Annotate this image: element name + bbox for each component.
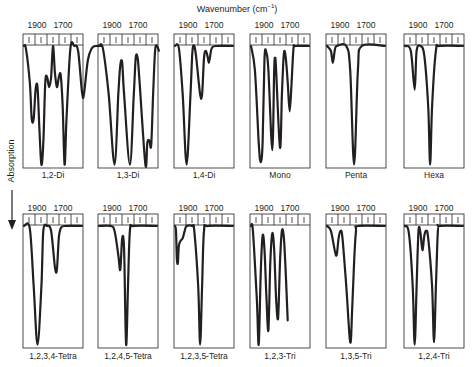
- panel-label: Penta: [345, 170, 367, 180]
- spectrum-curve: [405, 45, 463, 165]
- tick-label: 1700: [435, 203, 454, 213]
- tick-label: 1700: [129, 203, 148, 213]
- spectrum-panel: 190017001,2,3-Tri: [250, 203, 310, 361]
- spectrum-panel: 190017001,2-Di: [23, 20, 101, 180]
- spectrum-panel: 19001700Mono: [250, 20, 310, 180]
- tick-label: 1900: [179, 203, 198, 213]
- tick-label: 1700: [205, 203, 224, 213]
- tick-label: 1700: [54, 20, 73, 30]
- spectrum-curve: [251, 224, 288, 345]
- tick-label: 1700: [281, 203, 300, 213]
- spectrum-panel: 190017001,3-Di: [98, 20, 159, 180]
- tick-label: 1700: [357, 203, 376, 213]
- spectrum-panel: 190017001,2,3,5-Tetra: [174, 203, 234, 361]
- tick-label: 1900: [331, 203, 350, 213]
- tick-label: 1900: [28, 20, 47, 30]
- panel-label: 1,2-Di: [42, 170, 65, 180]
- spectrum-curve: [405, 225, 463, 345]
- spectrum-curve: [327, 226, 385, 343]
- tick-label: 1900: [28, 203, 47, 213]
- tick-label: 1700: [129, 20, 148, 30]
- tick-label: 1900: [179, 20, 198, 30]
- spectrum-curve: [175, 225, 233, 345]
- panel-label: 1,2,4,5-Tetra: [104, 351, 152, 361]
- tick-label: 1900: [409, 20, 428, 30]
- panel-label: 1,2,3,4-Tetra: [29, 351, 77, 361]
- tick-label: 1900: [255, 20, 274, 30]
- tick-label: 1700: [281, 20, 300, 30]
- tick-label: 1900: [255, 203, 274, 213]
- panel-label: 1,2,3,5-Tetra: [180, 351, 228, 361]
- spectrum-curve: [327, 44, 385, 165]
- spectrum-panel: 19001700Penta: [326, 20, 386, 180]
- spectrum-curve: [24, 223, 82, 344]
- tick-label: 1700: [357, 20, 376, 30]
- tick-label: 1700: [54, 203, 73, 213]
- tick-label: 1900: [103, 203, 122, 213]
- tick-label: 1700: [435, 20, 454, 30]
- spectrum-panel: 19001700Hexa: [404, 20, 464, 180]
- panel-label: Mono: [269, 170, 291, 180]
- tick-label: 1900: [331, 20, 350, 30]
- panel-label: 1,3,5-Tri: [340, 351, 371, 361]
- spectrum-curve: [99, 44, 159, 167]
- tick-label: 1900: [409, 203, 428, 213]
- absorption-arrow-icon: [8, 190, 16, 230]
- spectrum-panel: 190017001,2,4-Tri: [404, 203, 464, 361]
- spectrum-panel: 190017001,2,3,4-Tetra: [23, 203, 83, 361]
- spectrum-panel: 190017001,2,4,5-Tetra: [98, 203, 158, 361]
- spectrum-curve: [99, 225, 157, 345]
- ir-spectra-chart: 190017001,2-Di190017001,3-Di190017001,4-…: [0, 0, 474, 367]
- panel-label: Hexa: [424, 170, 444, 180]
- spectrum-curve: [175, 44, 233, 164]
- tick-label: 1700: [205, 20, 224, 30]
- panel-label: 1,4-Di: [193, 170, 216, 180]
- panel-label: 1,2,4-Tri: [418, 351, 449, 361]
- spectrum-panel: 190017001,4-Di: [174, 20, 234, 180]
- spectrum-curve: [24, 42, 101, 165]
- tick-label: 1900: [103, 20, 122, 30]
- panel-label: 1,3-Di: [117, 170, 140, 180]
- spectrum-panel: 190017001,3,5-Tri: [326, 203, 386, 361]
- spectrum-curve: [251, 45, 309, 162]
- panel-label: 1,2,3-Tri: [264, 351, 295, 361]
